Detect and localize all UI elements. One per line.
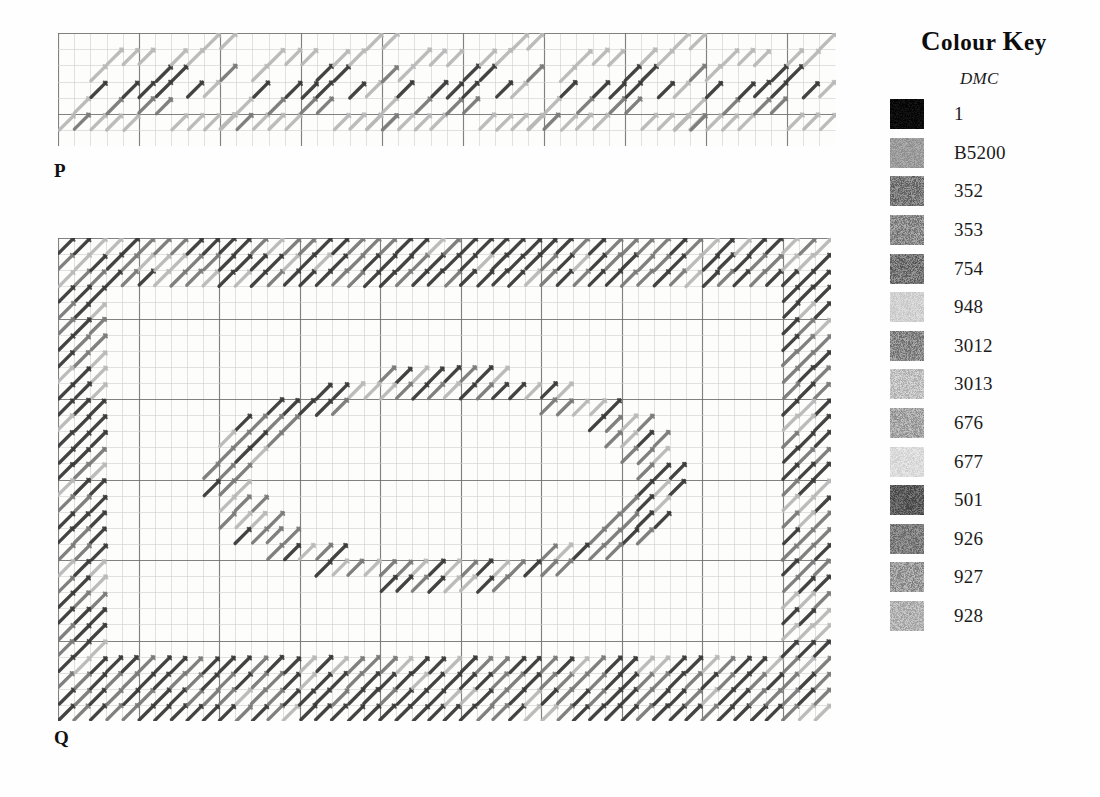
colour-swatch [890, 99, 924, 129]
colour-swatch [890, 601, 924, 631]
colour-key-row: 3013 [884, 365, 1084, 404]
colour-swatch [890, 524, 924, 554]
colour-key-subtitle: DMC [960, 69, 1084, 89]
colour-key-title-ey: ey [1024, 30, 1047, 55]
chart-q-canvas [58, 238, 831, 721]
colour-key-title-olour: olour [941, 30, 996, 55]
colour-swatch-canvas [890, 524, 924, 554]
colour-key-row: 501 [884, 481, 1084, 520]
colour-key-row: 3012 [884, 327, 1084, 366]
colour-key-code: 1 [954, 103, 964, 125]
colour-key-row: 352 [884, 172, 1084, 211]
colour-key-row: 926 [884, 520, 1084, 559]
colour-swatch-canvas [890, 176, 924, 206]
colour-swatch [890, 369, 924, 399]
colour-key-code: 353 [954, 219, 983, 241]
colour-swatch [890, 408, 924, 438]
colour-swatch [890, 254, 924, 284]
colour-key-code: 677 [954, 451, 983, 473]
colour-swatch [890, 562, 924, 592]
colour-key-code: 352 [954, 180, 983, 202]
chart-q-grid [58, 238, 831, 721]
chart-p-label: P [54, 160, 66, 182]
colour-swatch-canvas [890, 408, 924, 438]
colour-key-code: 926 [954, 528, 983, 550]
colour-key-row: 353 [884, 211, 1084, 250]
chart-p [58, 33, 836, 146]
colour-key-title-k: K [1002, 26, 1024, 56]
colour-key-row: 1 [884, 95, 1084, 134]
colour-key-row: 927 [884, 558, 1084, 597]
colour-swatch [890, 292, 924, 322]
colour-swatch-canvas [890, 562, 924, 592]
colour-key-title: Colour Key [884, 26, 1084, 57]
colour-key-row: 677 [884, 442, 1084, 481]
colour-swatch-canvas [890, 99, 924, 129]
chart-q-label: Q [54, 727, 69, 749]
colour-key-code: 3012 [954, 335, 993, 357]
colour-key-code: 927 [954, 566, 983, 588]
colour-swatch [890, 331, 924, 361]
colour-swatch-canvas [890, 254, 924, 284]
colour-key-code: 948 [954, 296, 983, 318]
colour-key-code: 3013 [954, 373, 993, 395]
colour-key-code: 501 [954, 489, 983, 511]
colour-swatch-canvas [890, 331, 924, 361]
colour-swatch-canvas [890, 138, 924, 168]
colour-swatch-canvas [890, 215, 924, 245]
colour-key-rows: 1B52003523537549483012301367667750192692… [884, 95, 1084, 635]
colour-key-code: B5200 [954, 142, 1006, 164]
colour-swatch [890, 485, 924, 515]
colour-swatch-canvas [890, 485, 924, 515]
colour-key: Colour Key DMC 1B52003523537549483012301… [884, 26, 1084, 635]
colour-swatch [890, 447, 924, 477]
colour-key-title-c: C [921, 26, 941, 56]
colour-key-row: 676 [884, 404, 1084, 443]
colour-key-row: 928 [884, 597, 1084, 636]
colour-swatch [890, 215, 924, 245]
chart-p-grid [58, 33, 836, 146]
chart-q [58, 238, 831, 721]
colour-key-code: 754 [954, 258, 983, 280]
colour-swatch [890, 138, 924, 168]
colour-key-code: 928 [954, 605, 983, 627]
colour-key-row: 948 [884, 288, 1084, 327]
pattern-sheet: P Q Colour Key DMC 1B5200352353754948301… [0, 0, 1100, 797]
colour-swatch-canvas [890, 601, 924, 631]
colour-swatch-canvas [890, 292, 924, 322]
chart-p-canvas [58, 33, 836, 146]
colour-swatch-canvas [890, 369, 924, 399]
colour-swatch [890, 176, 924, 206]
colour-key-row: B5200 [884, 134, 1084, 173]
colour-key-code: 676 [954, 412, 983, 434]
colour-swatch-canvas [890, 447, 924, 477]
colour-key-row: 754 [884, 249, 1084, 288]
